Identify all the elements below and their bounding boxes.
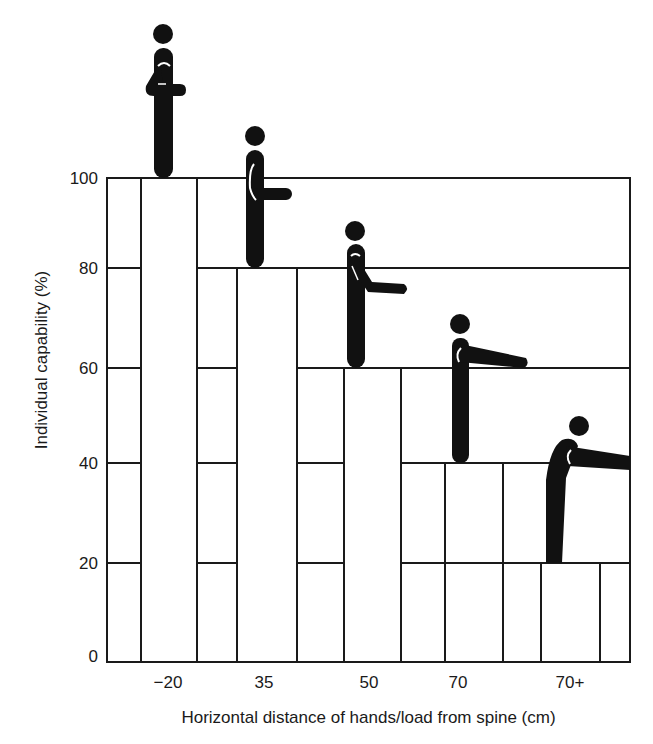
y-axis-title-text: Individual capability (%) — [32, 271, 52, 450]
x-tick-minus20: −20 — [133, 674, 203, 692]
y-tick-60: 60 — [58, 360, 98, 378]
y-tick-80: 80 — [58, 260, 98, 278]
x-tick-50: 50 — [334, 674, 404, 692]
figure-icon-35 — [245, 126, 292, 268]
y-tick-40: 40 — [58, 455, 98, 473]
y-tick-100: 100 — [58, 170, 98, 188]
figure-icon-70plus — [546, 416, 630, 563]
grid-lines — [107, 178, 630, 662]
x-axis-title: Horizontal distance of hands/load from s… — [107, 708, 630, 728]
figure-icon-minus20 — [146, 24, 186, 178]
y-tick-20: 20 — [58, 555, 98, 573]
x-tick-70plus: 70+ — [535, 674, 605, 692]
y-tick-0: 0 — [58, 648, 98, 666]
x-tick-35: 35 — [229, 674, 299, 692]
figure-icon-50 — [345, 221, 407, 368]
x-tick-70: 70 — [423, 674, 493, 692]
figure-icon-70 — [450, 314, 528, 463]
